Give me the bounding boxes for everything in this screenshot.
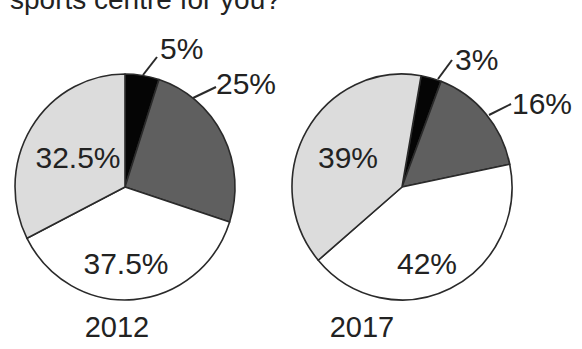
leader-line xyxy=(489,104,511,115)
slice-label: 5% xyxy=(160,32,203,65)
pie-charts: 5%25%37.5%32.5% 2012 3%16%42%39% 2017 xyxy=(0,0,582,349)
slice-label: 42% xyxy=(397,247,457,280)
leader-line xyxy=(143,57,157,75)
pie-chart-2017: 3%16%42%39% 2017 xyxy=(292,43,572,343)
slice-label: 3% xyxy=(455,43,498,76)
chart-title: sports centre for you? xyxy=(10,0,281,14)
slice-label: 37.5% xyxy=(83,247,168,280)
slice-label: 39% xyxy=(318,141,378,174)
leader-line xyxy=(193,87,216,98)
pie-year-label: 2017 xyxy=(330,311,395,343)
slice-label: 16% xyxy=(512,87,572,120)
pie-chart-2012: 5%25%37.5%32.5% 2012 xyxy=(15,32,276,343)
chart-figure: sports centre for you? 5%25%37.5%32.5% 2… xyxy=(0,0,582,349)
slice-label: 25% xyxy=(216,67,276,100)
leader-line xyxy=(438,60,452,79)
pie-year-label: 2012 xyxy=(85,311,150,343)
slice-label: 32.5% xyxy=(35,141,120,174)
